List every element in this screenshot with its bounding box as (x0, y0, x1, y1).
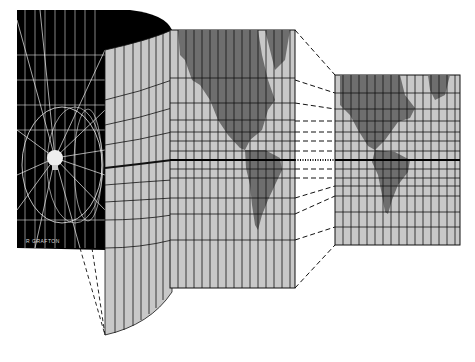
artist-signature: R GRAFTON (26, 238, 60, 244)
mercator-diagram (0, 0, 475, 362)
mercator-map (335, 75, 460, 245)
projection-guides (295, 30, 335, 288)
light-bulb-icon (47, 150, 63, 166)
unrolled-map (170, 30, 295, 288)
